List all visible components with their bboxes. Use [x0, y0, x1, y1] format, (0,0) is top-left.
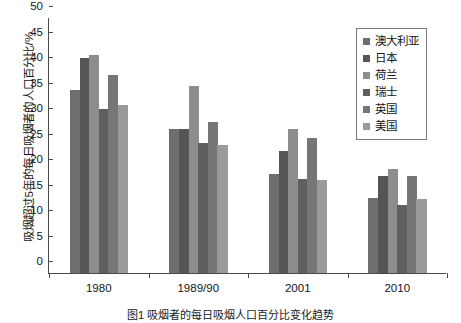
bar — [307, 138, 317, 273]
legend-item-label: 荷兰 — [375, 70, 397, 82]
y-axis-tick-label: 45 — [30, 26, 49, 38]
y-axis-tick-label: 35 — [30, 77, 49, 89]
y-axis-tick-label: 30 — [30, 102, 49, 114]
chart-figure: 吸烟超过5年的每日吸烟者的人口百分比/% 0510152025303540455… — [0, 0, 461, 323]
legend-item: 美国 — [363, 118, 419, 135]
x-axis-tick-label: 2010 — [384, 282, 410, 294]
y-axis-tick-label: 40 — [30, 51, 49, 63]
x-axis-tick-label: 1989/90 — [177, 282, 219, 294]
legend-swatch-icon — [363, 106, 370, 113]
y-axis-tick-label: 15 — [30, 179, 49, 191]
bar — [397, 205, 407, 273]
bar — [298, 179, 308, 273]
x-axis-tick-mark — [149, 273, 150, 278]
legend-item: 英国 — [363, 101, 419, 118]
bar — [108, 75, 118, 273]
bar-group — [248, 18, 348, 273]
bar — [388, 169, 398, 273]
legend-item-label: 日本 — [375, 53, 397, 65]
bar — [99, 109, 109, 273]
x-axis-tick-label: 2001 — [285, 282, 311, 294]
bar — [198, 143, 208, 273]
y-axis-tick-label: 25 — [30, 128, 49, 140]
legend-item: 瑞士 — [363, 84, 419, 101]
chart-legend: 澳大利亚日本荷兰瑞士英国美国 — [356, 28, 427, 140]
bar — [189, 86, 199, 273]
bar — [217, 145, 227, 273]
bar — [70, 90, 80, 273]
legend-swatch-icon — [363, 89, 370, 96]
bar — [208, 122, 218, 273]
legend-item-label: 美国 — [375, 121, 397, 133]
figure-caption: 图1 吸烟者的每日吸烟人口百分比变化趋势 — [0, 306, 461, 322]
legend-item: 日本 — [363, 50, 419, 67]
y-axis-tick-label: 5 — [37, 230, 49, 242]
bar — [118, 105, 128, 273]
bar — [378, 176, 388, 273]
legend-item-label: 澳大利亚 — [375, 36, 419, 48]
bar — [288, 129, 298, 273]
bar — [80, 58, 90, 273]
y-axis-tick-label: 20 — [30, 153, 49, 165]
bar — [317, 180, 327, 273]
y-axis-tick-label: 50 — [30, 0, 49, 12]
legend-item: 澳大利亚 — [363, 33, 419, 50]
bar — [89, 55, 99, 273]
legend-item-label: 英国 — [375, 104, 397, 116]
legend-swatch-icon — [363, 72, 370, 79]
y-axis-tick-label: 0 — [37, 255, 49, 267]
bar — [179, 129, 189, 273]
legend-item: 荷兰 — [363, 67, 419, 84]
x-axis-tick-mark — [49, 273, 50, 278]
x-axis-tick-mark — [447, 273, 448, 278]
bar — [416, 199, 426, 273]
bar — [169, 129, 179, 273]
legend-swatch-icon — [363, 55, 370, 62]
legend-item-label: 瑞士 — [375, 87, 397, 99]
x-axis-tick-label: 1980 — [86, 282, 112, 294]
legend-swatch-icon — [363, 123, 370, 130]
bar — [368, 198, 378, 273]
bar — [407, 176, 417, 273]
bar — [279, 151, 289, 273]
y-axis-tick-label: 10 — [30, 204, 49, 216]
bar — [269, 174, 279, 273]
x-axis-tick-mark — [348, 273, 349, 278]
bar-group — [149, 18, 249, 273]
legend-swatch-icon — [363, 38, 370, 45]
x-axis-tick-mark — [248, 273, 249, 278]
bar-group — [49, 18, 149, 273]
